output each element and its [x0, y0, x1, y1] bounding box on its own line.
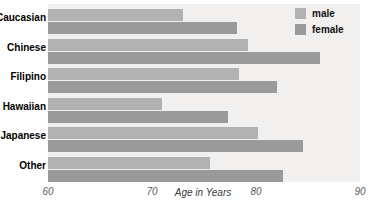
bar-other-male: [48, 157, 210, 169]
bar-caucasian-male: [48, 9, 183, 21]
legend-item-female: female: [295, 22, 357, 36]
category-label-filipino: Filipino: [0, 71, 46, 82]
bar-japanese-female: [48, 140, 303, 152]
bar-filipino-female: [48, 81, 277, 93]
legend-label: male: [312, 8, 335, 19]
x-tick-70: 70: [146, 186, 157, 197]
legend-label: female: [312, 24, 344, 35]
chart-legend: malefemale: [295, 6, 357, 38]
category-label-caucasian: Caucasian: [0, 12, 46, 23]
bar-filipino-male: [48, 68, 239, 80]
category-label-other: Other: [0, 160, 46, 171]
bar-hawaiian-female: [48, 111, 228, 123]
bar-japanese-male: [48, 127, 258, 139]
bar-chart: CaucasianChineseFilipinoHawaiianJapanese…: [0, 0, 379, 212]
category-label-japanese: Japanese: [0, 130, 46, 141]
x-axis-title: Age in Years: [175, 187, 232, 198]
legend-swatch-male-icon: [295, 8, 306, 19]
category-label-hawaiian: Hawaiian: [0, 101, 46, 112]
legend-swatch-female-icon: [295, 24, 306, 35]
x-tick-90: 90: [354, 186, 365, 197]
bar-chinese-male: [48, 39, 248, 51]
category-label-chinese: Chinese: [0, 42, 46, 53]
bar-caucasian-female: [48, 22, 237, 34]
x-axis: Age in Years 60708090: [0, 186, 379, 206]
bar-hawaiian-male: [48, 98, 162, 110]
bar-other-female: [48, 170, 283, 182]
bar-chinese-female: [48, 52, 320, 64]
legend-item-male: male: [295, 6, 357, 20]
x-tick-60: 60: [42, 186, 53, 197]
x-tick-80: 80: [250, 186, 261, 197]
